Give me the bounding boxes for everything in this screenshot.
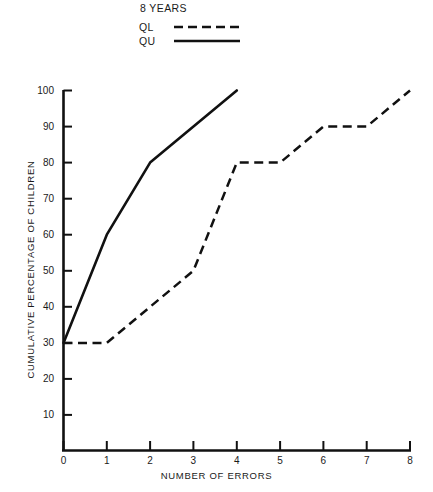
x-axis-ticks <box>64 441 411 450</box>
x-tick-label-5: 5 <box>270 455 290 466</box>
x-tick-label-7: 7 <box>357 455 377 466</box>
cropped-caption-sliver <box>4 484 334 491</box>
x-axis-title: NUMBER OF ERRORS <box>0 470 433 481</box>
x-tick-label-4: 4 <box>227 455 247 466</box>
x-tick-label-3: 3 <box>183 455 203 466</box>
x-tick-label-6: 6 <box>313 455 333 466</box>
series-line-ql <box>64 91 411 343</box>
series-line-qu <box>64 91 237 343</box>
x-tick-label-1: 1 <box>97 455 117 466</box>
x-tick-label-0: 0 <box>54 455 74 466</box>
x-tick-label-2: 2 <box>140 455 160 466</box>
y-axis-title: CUMULATIVE PERCENTAGE OF CHILDREN <box>25 90 36 450</box>
plot-area <box>0 0 433 492</box>
x-tick-label-8: 8 <box>400 455 420 466</box>
figure: 8 YEARS QL QU <box>0 0 433 492</box>
